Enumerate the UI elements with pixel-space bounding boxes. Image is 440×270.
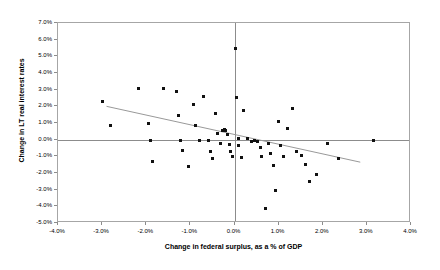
data-point <box>192 103 195 106</box>
data-point <box>295 150 298 153</box>
data-point <box>177 114 180 117</box>
data-point <box>264 207 267 210</box>
x-axis-tick: 1.0% <box>258 222 298 234</box>
x-axis-tick: -4.0% <box>37 222 77 234</box>
data-point <box>228 143 231 146</box>
data-point <box>109 124 112 127</box>
x-axis-tick: -2.0% <box>125 222 165 234</box>
y-axis-tick: 1.0% <box>0 117 57 127</box>
x-axis-title: Change in federal surplus, as a % of GDP <box>57 243 410 250</box>
data-point <box>279 144 282 147</box>
x-axis-tick-mark <box>366 222 367 225</box>
data-point <box>149 139 152 142</box>
x-axis-tick-mark <box>410 222 411 225</box>
data-point <box>256 140 259 143</box>
scatter-chart: Change in LT real interest rates -5.0%-4… <box>0 0 440 270</box>
data-point <box>277 120 280 123</box>
data-point <box>175 90 178 93</box>
data-point <box>224 129 227 132</box>
data-point <box>179 139 182 142</box>
x-axis: -4.0%-3.0%-2.0%-1.0%0.0%1.0%2.0%3.0%4.0% <box>57 222 410 240</box>
data-point <box>237 137 240 140</box>
data-point <box>315 173 318 176</box>
data-point <box>260 155 263 158</box>
x-axis-tick-mark <box>57 222 58 225</box>
y-axis-tick: -4.0% <box>0 200 57 210</box>
data-point <box>229 150 232 153</box>
data-point <box>240 156 243 159</box>
y-axis-tick: -1.0% <box>0 150 57 160</box>
data-point <box>308 180 311 183</box>
data-point <box>194 124 197 127</box>
data-point <box>269 152 272 155</box>
data-point <box>372 139 375 142</box>
y-axis-tick: 7.0% <box>0 17 57 27</box>
data-point <box>198 139 201 142</box>
data-point <box>300 154 303 157</box>
x-axis-tick: 2.0% <box>302 222 342 234</box>
data-point <box>226 133 229 136</box>
y-axis-tick: 6.0% <box>0 34 57 44</box>
data-point <box>147 122 150 125</box>
y-axis-tick: 4.0% <box>0 67 57 77</box>
data-point <box>101 100 104 103</box>
data-point <box>162 87 165 90</box>
x-axis-tick-mark <box>189 222 190 225</box>
x-axis-tick: -3.0% <box>81 222 121 234</box>
x-axis-tick: 3.0% <box>346 222 386 234</box>
y-axis-tick: 3.0% <box>0 84 57 94</box>
x-axis-tick-mark <box>234 222 235 225</box>
data-point <box>235 96 238 99</box>
x-axis-tick-mark <box>322 222 323 225</box>
data-point <box>237 144 240 147</box>
data-point <box>209 150 212 153</box>
x-axis-tick-mark <box>278 222 279 225</box>
y-axis-tick: 2.0% <box>0 100 57 110</box>
data-point <box>187 165 190 168</box>
data-point <box>326 142 329 145</box>
data-point <box>214 112 217 115</box>
data-point <box>286 127 289 130</box>
data-point <box>274 189 277 192</box>
x-axis-tick: 4.0% <box>390 222 430 234</box>
x-axis-tick: 0.0% <box>214 222 254 234</box>
data-point <box>304 163 307 166</box>
data-point <box>207 139 210 142</box>
data-point <box>267 142 270 145</box>
data-point <box>234 47 237 50</box>
y-axis-tick: 5.0% <box>0 50 57 60</box>
y-axis-tick: 0.0% <box>0 134 57 144</box>
x-axis-tick: -1.0% <box>169 222 209 234</box>
data-point <box>337 157 340 160</box>
data-point <box>291 107 294 110</box>
data-point <box>259 146 262 149</box>
data-point <box>219 142 222 145</box>
data-point <box>216 132 219 135</box>
data-point <box>282 155 285 158</box>
y-axis: -5.0%-4.0%-3.0%-2.0%-1.0%0.0%1.0%2.0%3.0… <box>0 22 57 222</box>
data-point <box>202 95 205 98</box>
data-point <box>272 164 275 167</box>
y-axis-tick: -2.0% <box>0 167 57 177</box>
data-point <box>231 155 234 158</box>
data-point <box>181 149 184 152</box>
x-axis-tick-mark <box>101 222 102 225</box>
data-point <box>242 109 245 112</box>
plot-area <box>57 22 410 222</box>
data-point <box>151 160 154 163</box>
trend-line <box>58 23 409 221</box>
data-point <box>211 157 214 160</box>
plot-inner <box>58 23 409 221</box>
y-axis-tick: -3.0% <box>0 184 57 194</box>
x-axis-tick-mark <box>145 222 146 225</box>
data-point <box>137 87 140 90</box>
